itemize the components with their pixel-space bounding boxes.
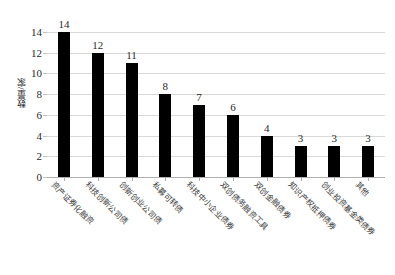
bar (193, 105, 205, 178)
y-tick-label: 14 (16, 27, 42, 38)
x-tick-mark (132, 178, 133, 181)
bar-value-label: 3 (356, 133, 380, 144)
x-tick-mark (233, 178, 234, 181)
bar-value-label: 11 (120, 50, 144, 61)
x-tick-mark (301, 178, 302, 181)
bar (227, 115, 239, 177)
bar (92, 53, 104, 177)
bar-value-label: 12 (86, 40, 110, 51)
gridline (47, 32, 385, 33)
y-tick-label: 12 (16, 47, 42, 58)
bar (362, 146, 374, 177)
bar-value-label: 14 (52, 19, 76, 30)
y-tick-label: 4 (16, 130, 42, 141)
bar (159, 94, 171, 177)
x-axis-label: 私募可转债 (151, 181, 185, 215)
bar-value-label: 3 (289, 133, 313, 144)
x-tick-mark (64, 178, 65, 181)
bar-value-label: 8 (153, 81, 177, 92)
x-tick-mark (368, 178, 369, 181)
y-axis-title: 数量/家 (14, 78, 27, 108)
bar (328, 146, 340, 177)
bar-value-label: 6 (221, 102, 245, 113)
x-tick-mark (334, 178, 335, 181)
x-tick-mark (267, 178, 268, 181)
bar-value-label: 3 (322, 133, 346, 144)
y-tick-label: 0 (16, 172, 42, 183)
bar-value-label: 7 (187, 92, 211, 103)
plot-area (47, 32, 385, 177)
bar-value-label: 4 (255, 123, 279, 134)
x-tick-mark (199, 178, 200, 181)
bar (295, 146, 307, 177)
x-axis-label: 其他 (353, 181, 370, 198)
bar (58, 32, 70, 177)
y-tick-label: 2 (16, 151, 42, 162)
bar (261, 136, 273, 177)
bar (126, 63, 138, 177)
y-tick-label: 6 (16, 109, 42, 120)
x-tick-mark (98, 178, 99, 181)
x-tick-mark (165, 178, 166, 181)
bar-chart: 0 2 4 6 8 10 12 14 数量/家 资产证券化融资科技创新公司债创新… (0, 0, 395, 275)
y-axis-tick-labels: 0 2 4 6 8 10 12 14 (8, 0, 42, 275)
